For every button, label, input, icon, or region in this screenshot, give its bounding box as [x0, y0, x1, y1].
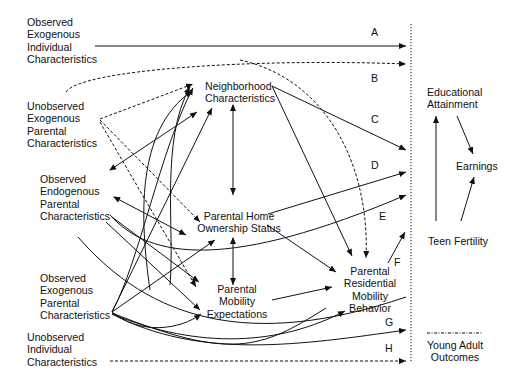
node-observed-endogenous-parental: Observed Endogenous Parental Characteris… [40, 173, 110, 223]
path-label-a: A [371, 26, 378, 38]
path-label-f: F [394, 256, 400, 268]
causal-diagram: Observed Exogenous Individual Characteri… [0, 0, 516, 379]
node-teen-fertility: Teen Fertility [428, 235, 488, 247]
node-unobserved-individual: Unobserved Individual Characteristics [27, 331, 97, 368]
node-neighborhood-characteristics: Neighborhood Characteristics [205, 80, 275, 105]
node-educational-attainment: Educational Attainment [427, 86, 482, 111]
node-young-adult-outcomes: Young Adult Outcomes [424, 339, 486, 364]
path-label-g: G [385, 316, 393, 328]
node-parental-home-ownership: Parental Home Ownership Status [193, 210, 285, 235]
node-observed-exogenous-parental: Observed Exogenous Parental Characterist… [40, 272, 110, 322]
node-parental-mobility-expectations: Parental Mobility Expectations [205, 283, 269, 320]
path-c-arrow [272, 86, 406, 150]
node-parental-residential-mobility: Parental Residential Mobility Behavior [340, 265, 400, 315]
node-unobserved-exogenous-parental: Unobserved Exogenous Parental Characteri… [27, 100, 97, 150]
path-label-h: H [385, 342, 393, 354]
path-label-c: C [371, 113, 379, 125]
node-observed-exogenous-individual: Observed Exogenous Individual Characteri… [27, 16, 97, 66]
path-label-e: E [379, 210, 386, 222]
path-d-arrow [268, 172, 406, 214]
path-label-b: B [371, 72, 378, 84]
path-label-d: D [371, 159, 379, 171]
node-earnings: Earnings [456, 160, 498, 172]
